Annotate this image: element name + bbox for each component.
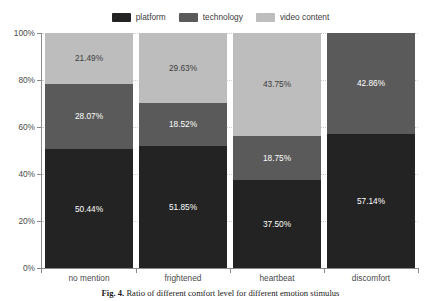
bar-series-container: 21.49%28.07%50.44%29.63%18.52%51.85%43.7… xyxy=(42,33,418,268)
figure-container: platform technology video content 0%20%4… xyxy=(0,0,441,301)
bar-segment-platform[interactable]: 50.44% xyxy=(45,149,133,268)
x-axis-category-frightened[interactable]: frightened xyxy=(136,269,230,285)
bar-value-label: 28.07% xyxy=(75,112,103,120)
bar-value-label: 42.86% xyxy=(357,79,385,87)
bar-segment-platform[interactable]: 37.50% xyxy=(233,180,321,268)
bar-value-label: 50.44% xyxy=(75,205,103,213)
x-axis-category-no-mention[interactable]: no mention xyxy=(42,269,136,285)
x-tick-mark xyxy=(136,269,137,273)
figure-number: Fig. 4. xyxy=(102,288,125,298)
legend-label-video-content: video content xyxy=(280,13,329,21)
bar-segment-technology[interactable]: 18.52% xyxy=(139,103,227,147)
chart-legend: platform technology video content xyxy=(0,10,441,25)
bar-group-heartbeat: 43.75%18.75%37.50% xyxy=(230,33,324,268)
bar-segment-video-content[interactable]: 43.75% xyxy=(233,33,321,136)
x-axis-label: no mention xyxy=(68,274,109,282)
legend-item-platform[interactable]: platform xyxy=(112,13,166,22)
y-tick-label-20: 20% xyxy=(18,217,35,225)
x-tick-mark xyxy=(324,269,325,273)
legend-swatch-platform xyxy=(112,13,131,22)
bar-group-frightened: 29.63%18.52%51.85% xyxy=(136,33,230,268)
figure-caption-text: Ratio of different comfort level for dif… xyxy=(126,288,339,298)
legend-label-technology: technology xyxy=(203,13,243,21)
y-tick-label-80: 80% xyxy=(18,76,35,84)
stacked-bar: 29.63%18.52%51.85% xyxy=(139,33,227,268)
bar-group-no-mention: 21.49%28.07%50.44% xyxy=(42,33,136,268)
x-tick-mark xyxy=(230,269,231,273)
bar-segment-platform[interactable]: 51.85% xyxy=(139,146,227,268)
bar-segment-technology[interactable]: 42.86% xyxy=(327,33,415,134)
legend-swatch-video-content xyxy=(256,13,275,22)
legend-swatch-technology xyxy=(179,13,198,22)
x-axis-category-discomfort[interactable]: discomfort xyxy=(324,269,418,285)
legend-label-platform: platform xyxy=(136,13,166,21)
y-tick-label-40: 40% xyxy=(18,170,35,178)
legend-item-video-content[interactable]: video content xyxy=(256,13,329,22)
y-axis: 0%20%40%60%80%100% xyxy=(0,33,42,268)
plot-area: 21.49%28.07%50.44%29.63%18.52%51.85%43.7… xyxy=(42,33,418,268)
x-axis-label: discomfort xyxy=(352,274,390,282)
bar-segment-video-content[interactable]: 21.49% xyxy=(45,33,133,84)
bar-segment-technology[interactable]: 28.07% xyxy=(45,84,133,150)
figure-caption: Fig. 4. Ratio of different comfort level… xyxy=(0,288,441,299)
stacked-bar: 42.86%57.14% xyxy=(327,33,415,268)
bar-value-label: 21.49% xyxy=(75,54,103,62)
stacked-bar: 43.75%18.75%37.50% xyxy=(233,33,321,268)
bar-value-label: 18.52% xyxy=(169,120,197,128)
bar-value-label: 18.75% xyxy=(263,154,291,162)
x-axis: no mentionfrightenedheartbeatdiscomfort xyxy=(42,269,418,285)
bar-segment-platform[interactable]: 57.14% xyxy=(327,134,415,268)
x-axis-label: frightened xyxy=(165,274,202,282)
legend-item-technology[interactable]: technology xyxy=(179,13,243,22)
bar-value-label: 57.14% xyxy=(357,197,385,205)
bar-value-label: 37.50% xyxy=(263,220,291,228)
y-tick-label-100: 100% xyxy=(14,29,35,37)
bar-segment-video-content[interactable]: 29.63% xyxy=(139,33,227,103)
bar-value-label: 43.75% xyxy=(263,80,291,88)
y-tick-label-0: 0% xyxy=(23,264,35,272)
bar-segment-technology[interactable]: 18.75% xyxy=(233,136,321,180)
x-axis-label: heartbeat xyxy=(259,274,294,282)
y-tick-label-60: 60% xyxy=(18,123,35,131)
x-axis-category-heartbeat[interactable]: heartbeat xyxy=(230,269,324,285)
bar-value-label: 29.63% xyxy=(169,64,197,72)
x-axis-end-right xyxy=(418,268,419,273)
bar-value-label: 51.85% xyxy=(169,203,197,211)
stacked-bar: 21.49%28.07%50.44% xyxy=(45,33,133,268)
bar-group-discomfort: 42.86%57.14% xyxy=(324,33,418,268)
